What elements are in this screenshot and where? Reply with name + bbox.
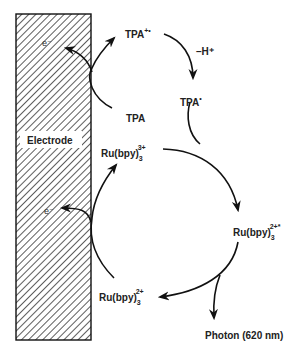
- tpa-label: TPA: [126, 113, 145, 124]
- deprotonation-label: –H⁺: [196, 46, 214, 57]
- photon-arrow: [214, 275, 220, 318]
- ru2-excited-label: Ru(bpy)32+*: [233, 223, 281, 241]
- electrode: Electrode: [16, 14, 91, 340]
- tpa-radical-cation-label: TPA+•: [125, 27, 151, 40]
- ru3-label: Ru(bpy)33+: [101, 144, 146, 162]
- electrode-label: Electrode: [27, 135, 73, 146]
- ru2-label: Ru(bpy)32+: [99, 288, 144, 306]
- tpa-radical-label: TPA•: [180, 95, 202, 108]
- deprotonation-arrow: [164, 34, 193, 78]
- ru3-to-ru2-excited-arrow: [163, 149, 238, 210]
- ru2-excited-to-ru2-arrow: [160, 242, 238, 297]
- photon-label: Photon (620 nm): [205, 330, 283, 341]
- electron-label-bottom: e⁻: [44, 206, 54, 216]
- electron-label-top: e⁻: [42, 38, 52, 48]
- tpa-radical-arrow: [188, 102, 200, 144]
- ecl-diagram: Electrode e⁻ e⁻ TPA+• –H⁺ TPA• TPA Ru(bp…: [0, 0, 302, 352]
